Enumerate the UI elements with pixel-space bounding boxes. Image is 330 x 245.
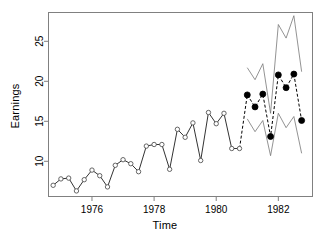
y-tick-label: 20 [34, 75, 45, 87]
forecast-point [283, 85, 289, 91]
forecast-point [299, 118, 305, 124]
observed-point [66, 176, 70, 180]
earnings-forecast-chart: 10152025 1976197819801982 Time Earnings [0, 0, 330, 245]
upper-prediction-interval-line [247, 16, 301, 114]
chart-canvas: 10152025 1976197819801982 [0, 0, 330, 245]
lower-prediction-interval-line [247, 113, 301, 155]
y-tick-label: 15 [34, 115, 45, 127]
observed-point [175, 127, 179, 131]
x-tick-label: 1976 [81, 204, 104, 215]
observed-point [237, 146, 241, 150]
observed-point [59, 177, 63, 181]
upper-pi-polyline [247, 16, 301, 114]
observed-point [214, 122, 218, 126]
observed-point [136, 170, 140, 174]
observed-point [230, 146, 234, 150]
observed-point [198, 158, 202, 162]
x-tick-label: 1978 [143, 204, 166, 215]
observed-point [167, 167, 171, 171]
forecast-point [244, 92, 250, 98]
x-axis-label: Time [0, 219, 330, 231]
observed-point [90, 168, 94, 172]
observed-point [183, 135, 187, 139]
observed-polyline [53, 113, 239, 191]
forecast-point [268, 134, 274, 140]
observed-point [98, 174, 102, 178]
observed-point [160, 142, 164, 146]
y-axis-label: Earnings [9, 61, 21, 151]
observed-point [51, 183, 55, 187]
observed-point [144, 144, 148, 148]
lower-pi-polyline [247, 113, 301, 155]
forecast-point [252, 104, 258, 110]
observed-point [152, 142, 156, 146]
observed-point [105, 185, 109, 189]
forecast-connector [240, 95, 248, 149]
plot-frame [49, 13, 313, 197]
observed-point [129, 162, 133, 166]
y-axis-ticks: 10152025 [34, 35, 48, 167]
observed-point [191, 121, 195, 125]
x-axis-ticks: 1976197819801982 [81, 197, 290, 215]
observed-point [206, 110, 210, 114]
observed-earnings-series [51, 95, 247, 193]
observed-point [222, 111, 226, 115]
forecast-point [275, 72, 281, 78]
y-tick-label: 10 [34, 155, 45, 167]
observed-point [121, 158, 125, 162]
forecast-point [260, 91, 266, 97]
forecast-point [291, 71, 297, 77]
observed-point [113, 163, 117, 167]
x-tick-label: 1980 [205, 204, 228, 215]
y-tick-label: 25 [34, 35, 45, 47]
x-tick-label: 1982 [267, 204, 290, 215]
observed-point [74, 189, 78, 193]
observed-point [82, 178, 86, 182]
plot-border [49, 13, 313, 197]
